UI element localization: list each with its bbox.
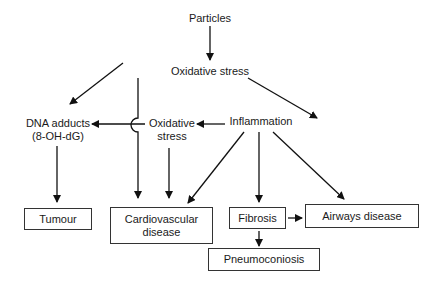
node-pneumoconiosis: Pneumoconiosis [208,248,320,271]
edge-oxstress-cardio [131,78,138,198]
airways-label: Airways disease [322,210,401,223]
fibrosis-label: Fibrosis [238,212,277,225]
node-tumour: Tumour [24,208,92,230]
oxidative-stress-mid-line1: Oxidative [145,117,199,130]
edge-oxstress-dna [70,63,123,104]
cardiovascular-line1: Cardiovascular [125,213,198,226]
pneumoconiosis-label: Pneumoconiosis [224,253,305,266]
node-fibrosis: Fibrosis [229,207,286,229]
edge-oxstress-inflammation [248,78,317,118]
node-cardiovascular-disease: Cardiovascular disease [110,207,213,244]
edge-inflammation-airways [273,132,344,199]
oxidative-stress-mid-line2: stress [145,130,199,143]
node-inflammation: Inflammation [228,115,294,128]
cardiovascular-line2: disease [143,226,181,239]
dna-adducts-line1: DNA adducts [18,117,98,130]
node-oxidative-stress-top: Oxidative stress [160,65,260,78]
node-particles: Particles [170,12,250,25]
dna-adducts-line2: (8-OH-dG) [18,130,98,143]
tumour-label: Tumour [39,213,77,226]
edges-layer [0,0,438,286]
node-dna-adducts: DNA adducts (8-OH-dG) [18,117,98,143]
node-airways-disease: Airways disease [305,204,419,228]
node-oxidative-stress-mid: Oxidative stress [145,117,199,143]
